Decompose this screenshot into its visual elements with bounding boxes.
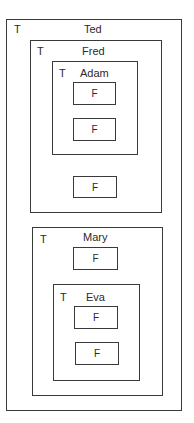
adam-name: Adam: [80, 67, 109, 79]
leaf-label: F: [92, 182, 98, 193]
leaf-label: F: [92, 253, 98, 264]
mary-type-tag: T: [40, 233, 47, 245]
adam-type-tag: T: [59, 67, 66, 79]
eva-name: Eva: [86, 291, 105, 303]
eva-leaf-1: F: [74, 306, 118, 329]
adam-leaf-2: F: [73, 118, 116, 141]
leaf-label: F: [93, 312, 99, 323]
mary-leaf: F: [73, 247, 118, 270]
eva-type-tag: T: [60, 291, 67, 303]
fred-type-tag: T: [37, 45, 44, 57]
ted-name: Ted: [84, 23, 102, 35]
leaf-label: F: [91, 88, 97, 99]
eva-leaf-2: F: [75, 342, 119, 365]
fred-leaf: F: [73, 176, 117, 198]
ted-type-tag: T: [14, 23, 21, 35]
leaf-label: F: [91, 124, 97, 135]
adam-leaf-1: F: [73, 82, 116, 105]
mary-name: Mary: [83, 231, 107, 243]
fred-name: Fred: [82, 45, 105, 57]
leaf-label: F: [94, 348, 100, 359]
